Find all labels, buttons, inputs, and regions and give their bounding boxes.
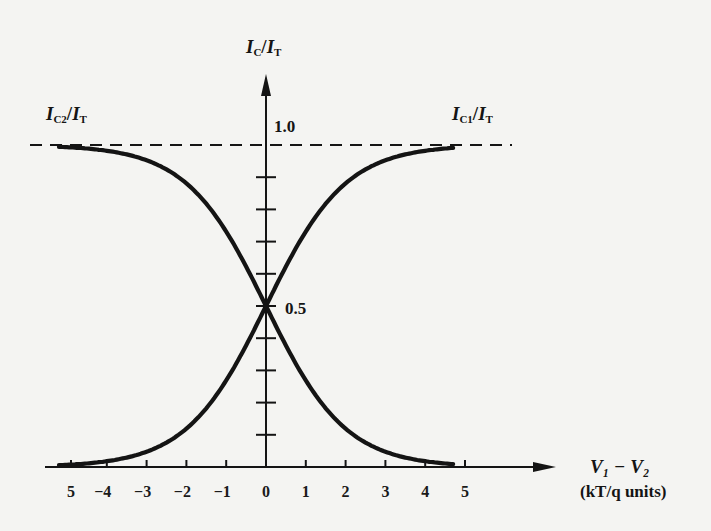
ic1-sub2: T [486, 113, 493, 125]
series-label-ic2: IC2/IT [46, 103, 87, 125]
x-tick-label: 5 [450, 483, 480, 501]
series-label-ic1: IC1/IT [452, 103, 493, 125]
x-axis-arrow-icon [533, 462, 556, 472]
y-title-sub2: T [274, 46, 281, 58]
x-tick-label: −4 [88, 483, 118, 501]
y-axis-title: IC/IT [246, 36, 281, 58]
x-tick-label: 5 [56, 483, 86, 501]
y-axis-arrow-icon [261, 74, 271, 96]
plot-area [0, 0, 711, 531]
y-title-main2: I [267, 36, 274, 57]
x-tick-label: 4 [410, 483, 440, 501]
x-tick-label: −1 [207, 483, 237, 501]
x-axis-title-line1: V₁ − V₂ [590, 456, 650, 478]
ic1-main2: I [478, 103, 485, 124]
ic2-sub: C2 [53, 113, 66, 125]
x-tick-label: 3 [370, 483, 400, 501]
x-tick-label: −3 [128, 483, 158, 501]
y-label-1-0: 1.0 [274, 117, 295, 137]
ic2-sub2: T [80, 113, 87, 125]
x-tick-label: 0 [251, 483, 281, 501]
x-tick-label: 1 [291, 483, 321, 501]
x-tick-label: −2 [167, 483, 197, 501]
x-tick-label: 2 [331, 483, 361, 501]
figure-page: IC/IT IC2/IT IC1/IT 1.0 0.5 5−4−3−2−1012… [0, 0, 711, 531]
ic2-main2: I [72, 103, 79, 124]
ic1-sub: C1 [459, 113, 472, 125]
y-label-0-5: 0.5 [285, 299, 306, 319]
x-axis-title-line2: (kT/q units) [580, 482, 666, 502]
